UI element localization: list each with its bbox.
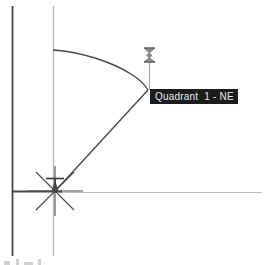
cad-drawing-canvas[interactable]: Quadrant 1 - NE bbox=[0, 0, 268, 265]
drawing-viewport[interactable] bbox=[0, 0, 268, 265]
radius-bearing-line[interactable] bbox=[57, 90, 148, 189]
quadrant-arc[interactable] bbox=[53, 50, 148, 90]
bottom-left-cutoff-artifact bbox=[4, 259, 41, 265]
hourglass-cursor-icon bbox=[144, 48, 155, 62]
quadrant-tooltip: Quadrant 1 - NE bbox=[150, 89, 238, 104]
